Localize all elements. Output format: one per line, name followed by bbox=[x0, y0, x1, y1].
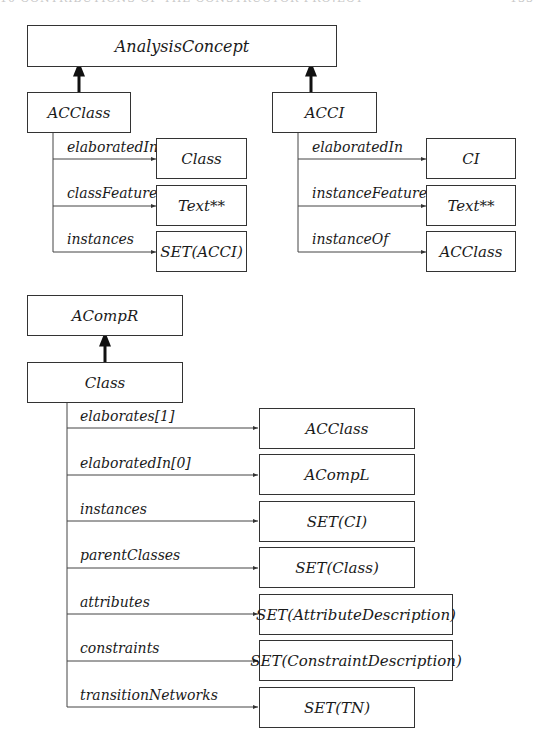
relation-label: classFeatures bbox=[67, 185, 164, 201]
relation-label: attributes bbox=[80, 594, 150, 610]
relation-label: transitionNetworks bbox=[80, 687, 218, 703]
relation-label: elaborates[1] bbox=[80, 408, 174, 424]
relation-label: instances bbox=[80, 501, 147, 517]
target-node: ACompL bbox=[259, 454, 415, 495]
node-class: Class bbox=[27, 362, 183, 403]
relation-label: elaboratedIn bbox=[67, 139, 158, 155]
target-node: Class bbox=[156, 138, 247, 179]
target-node: SET(TN) bbox=[259, 687, 415, 728]
target-node: SET(ACCI) bbox=[156, 231, 247, 272]
target-node: ACClass bbox=[426, 231, 516, 272]
target-node: Text** bbox=[156, 185, 247, 226]
target-node: ACClass bbox=[259, 408, 415, 449]
node-acompr: ACompR bbox=[27, 295, 183, 336]
target-node: Text** bbox=[426, 185, 516, 226]
node-acci: ACCI bbox=[272, 92, 377, 133]
relation-label: elaboratedIn bbox=[312, 139, 403, 155]
node-analysis-concept: AnalysisConcept bbox=[27, 25, 337, 67]
target-node: SET(CI) bbox=[259, 501, 415, 542]
node-acclass: ACClass bbox=[27, 92, 131, 133]
relation-label: parentClasses bbox=[80, 547, 180, 563]
relation-label: instances bbox=[67, 231, 134, 247]
target-node: SET(Class) bbox=[259, 547, 415, 588]
relation-label: instanceOf bbox=[312, 231, 388, 247]
relation-label: constraints bbox=[80, 640, 159, 656]
relation-label: elaboratedIn[0] bbox=[80, 455, 191, 471]
target-node: SET(ConstraintDescription) bbox=[259, 640, 453, 681]
relation-label: instanceFeatures bbox=[312, 185, 434, 201]
target-node: SET(AttributeDescription) bbox=[259, 594, 453, 635]
target-node: CI bbox=[426, 138, 516, 179]
